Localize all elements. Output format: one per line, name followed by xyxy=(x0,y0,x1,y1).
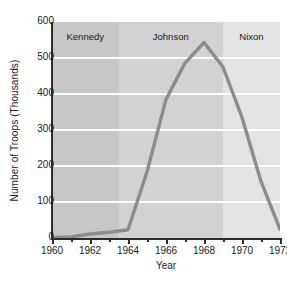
x-tick-major-1960 xyxy=(52,238,54,244)
troops-line-chart: Number of Troops (Thousands) Kennedy Joh… xyxy=(0,0,287,282)
plot-area: Kennedy Johnson Nixon xyxy=(52,22,280,238)
y-tick-label-400: 400 xyxy=(14,87,54,98)
x-tick-label-1962: 1962 xyxy=(70,245,110,256)
x-tick-major-1968 xyxy=(204,238,206,244)
y-tick-label-300: 300 xyxy=(14,123,54,134)
x-tick-label-1964: 1964 xyxy=(108,245,148,256)
y-tick-label-100: 100 xyxy=(14,195,54,206)
y-tick-label-600: 600 xyxy=(14,15,54,26)
y-tick-label-0: 0 xyxy=(14,231,54,242)
x-tick-major-1966 xyxy=(166,238,168,244)
x-tick-label-1970: 1970 xyxy=(222,245,262,256)
x-tick-label-1972: 1972 xyxy=(260,245,287,256)
x-tick-minor-1961 xyxy=(71,238,73,242)
x-tick-minor-1963 xyxy=(109,238,111,242)
x-axis-title: Year xyxy=(52,260,280,271)
x-tick-major-1964 xyxy=(128,238,130,244)
y-tick-label-200: 200 xyxy=(14,159,54,170)
x-tick-minor-1965 xyxy=(147,238,149,242)
x-tick-minor-1969 xyxy=(223,238,225,242)
x-tick-label-1960: 1960 xyxy=(32,245,72,256)
x-tick-label-1966: 1966 xyxy=(146,245,186,256)
y-tick-label-500: 500 xyxy=(14,51,54,62)
x-tick-major-1972 xyxy=(280,238,282,244)
series-troops xyxy=(52,22,280,238)
x-tick-minor-1967 xyxy=(185,238,187,242)
x-tick-minor-1971 xyxy=(261,238,263,242)
x-tick-label-1968: 1968 xyxy=(184,245,224,256)
x-tick-major-1970 xyxy=(242,238,244,244)
x-tick-major-1962 xyxy=(90,238,92,244)
